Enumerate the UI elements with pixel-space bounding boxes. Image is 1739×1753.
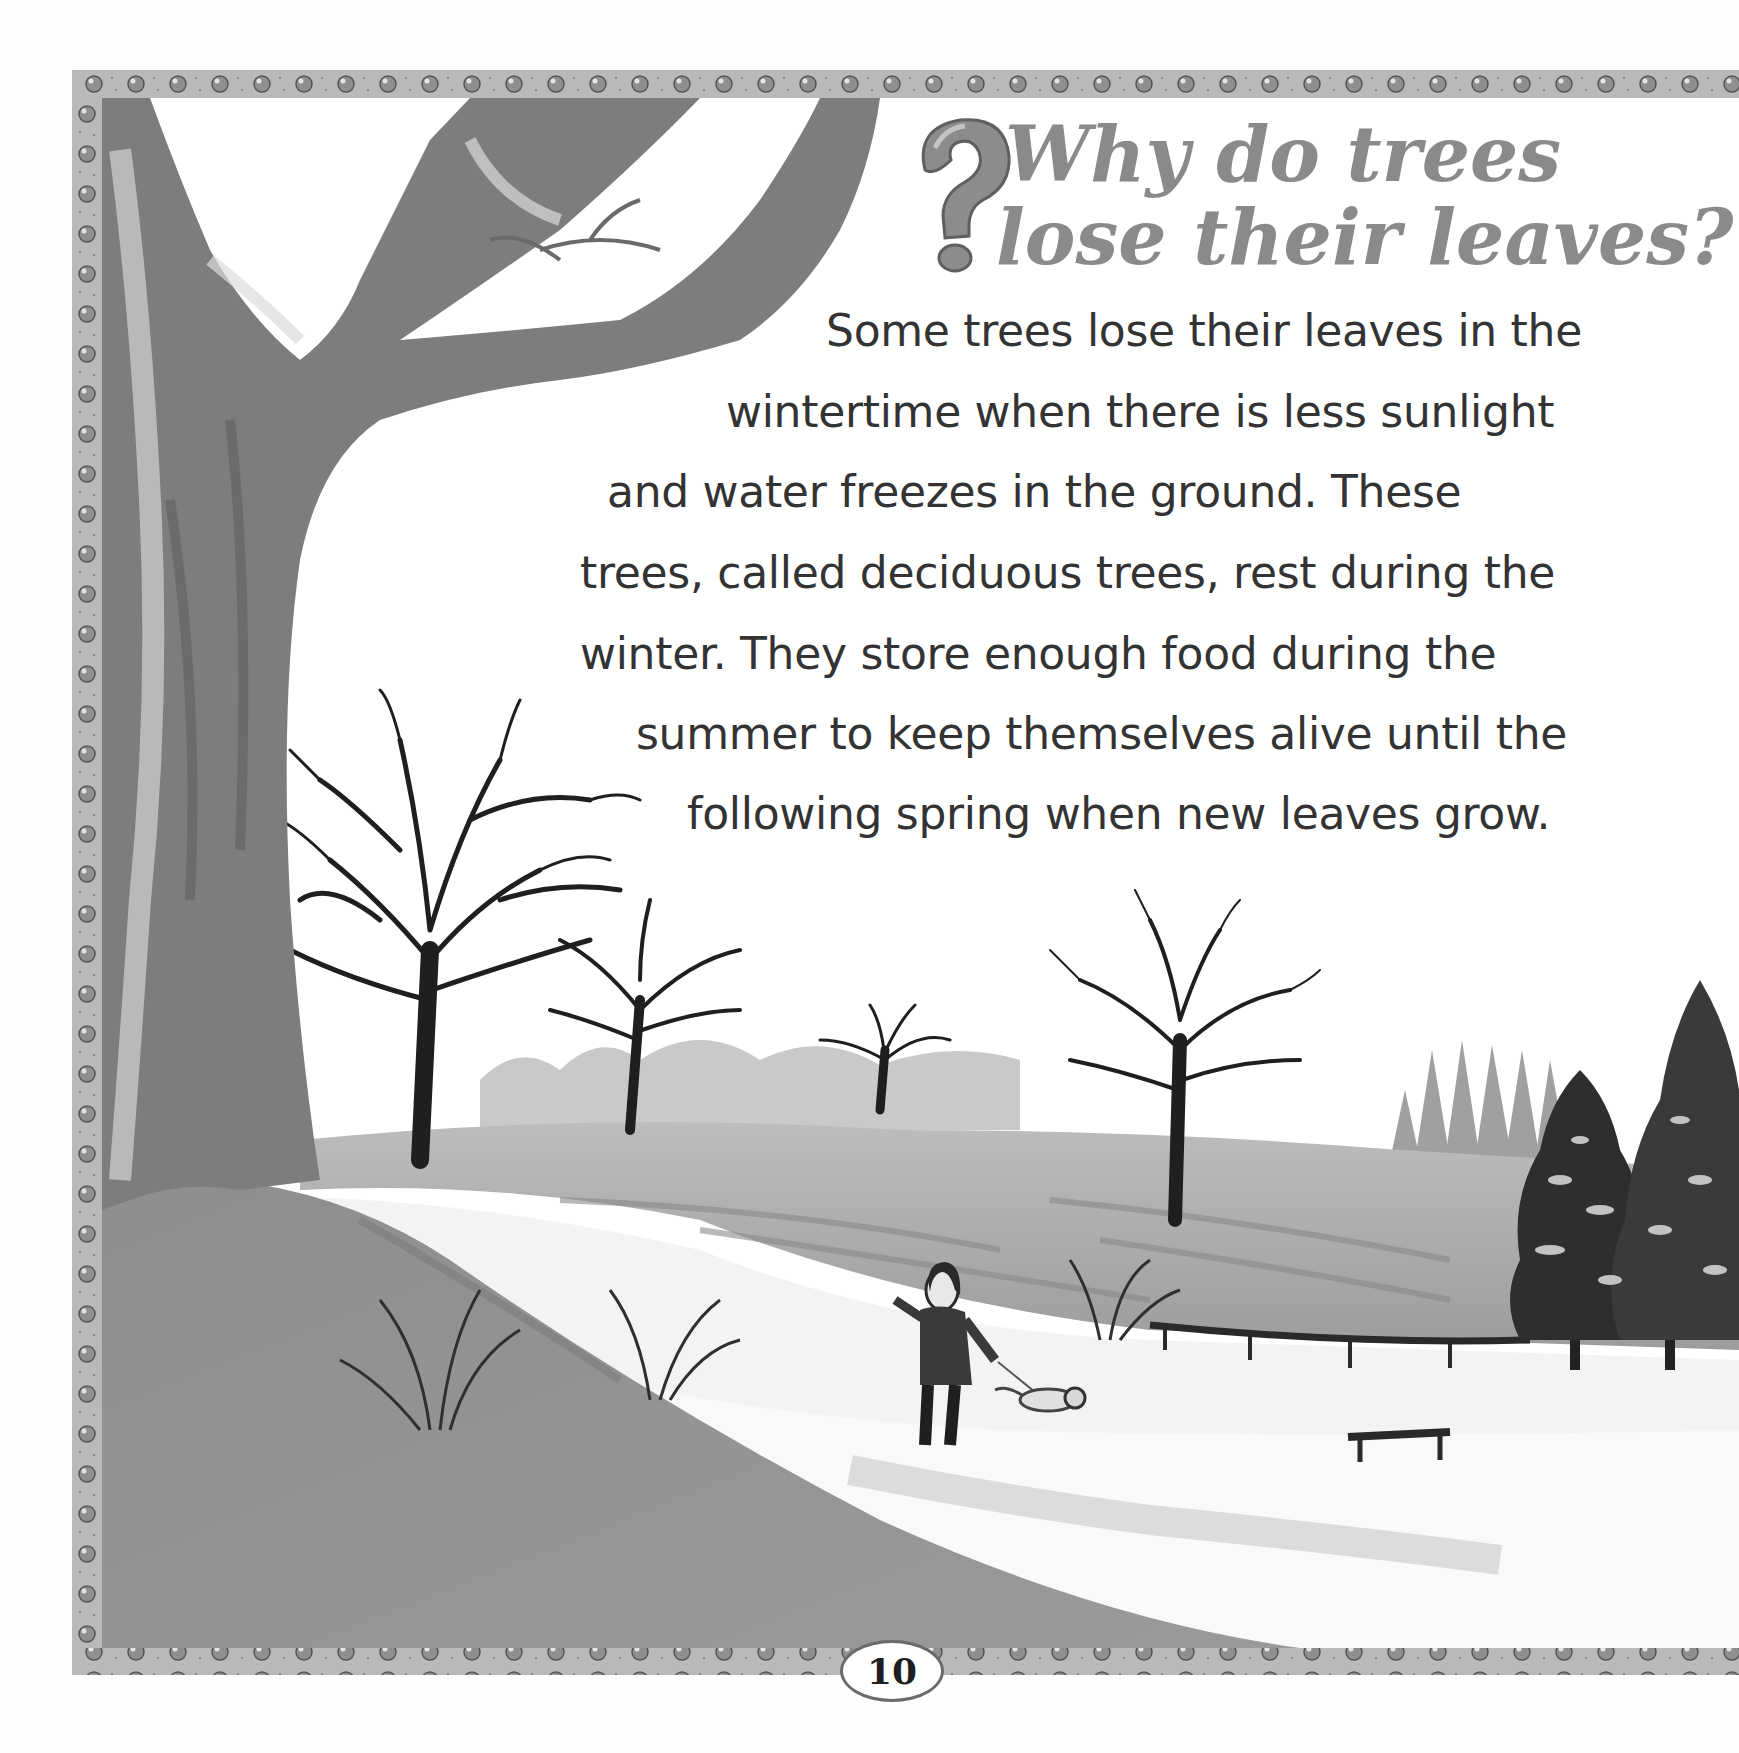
- page-title-line-1: Why do trees: [1005, 117, 1561, 193]
- body-text-line: trees, called deciduous trees, rest duri…: [580, 551, 1555, 595]
- body-text-line: wintertime when there is less sunlight: [726, 390, 1554, 434]
- body-text-line: and water freezes in the ground. These: [607, 470, 1461, 514]
- page-number-badge: 10: [840, 1640, 944, 1702]
- body-text-line: Some trees lose their leaves in the: [826, 309, 1582, 353]
- page-title-line-2: lose their leaves?: [996, 200, 1734, 276]
- body-text-line: summer to keep themselves alive until th…: [636, 712, 1567, 756]
- border-left: [72, 70, 102, 1675]
- book-page: Why do trees lose their leaves? Some tre…: [0, 0, 1739, 1753]
- page-number: 10: [867, 1650, 917, 1692]
- border-top: [72, 70, 1739, 98]
- body-text-line: following spring when new leaves grow.: [687, 792, 1550, 836]
- body-text-line: winter. They store enough food during th…: [580, 632, 1496, 676]
